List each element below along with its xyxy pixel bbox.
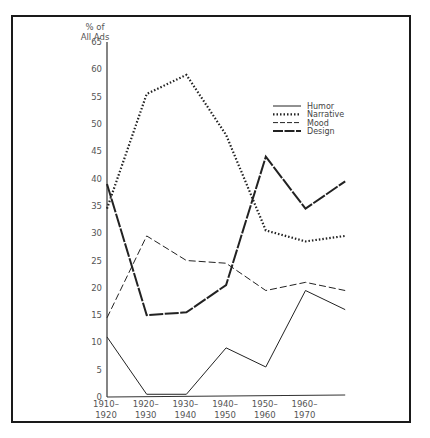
x-tick-label: 1920	[95, 410, 117, 420]
y-tick-label: 50	[91, 119, 102, 129]
x-tick-label: 1940	[175, 410, 197, 420]
x-tick-label: 1970	[294, 410, 316, 420]
y-tick-label: 25	[91, 256, 102, 266]
x-tick-label: 1960–	[292, 399, 318, 409]
legend-label-design: Design	[307, 127, 335, 136]
series-line-narrative	[107, 75, 345, 242]
line-chart: % of All Ads 05101520253035404550556065 …	[0, 0, 430, 438]
series-line-mood	[107, 236, 345, 318]
y-tick-label: 35	[91, 201, 102, 211]
series-line-design	[107, 157, 345, 315]
x-tick-label: 1910–	[93, 399, 119, 409]
y-tick-label: 15	[91, 310, 102, 320]
x-tick-label: 1930	[135, 410, 157, 420]
y-axis-label-line1: % of	[86, 22, 106, 32]
x-axis-line	[107, 395, 345, 397]
y-tick-label: 30	[91, 228, 102, 238]
y-tick-label: 65	[91, 37, 102, 47]
x-tick-label: 1940–	[212, 399, 238, 409]
y-tick-label: 40	[91, 174, 102, 184]
y-tick-label: 55	[91, 92, 102, 102]
x-ticks: 1910–19201920–19301930–19401940–19501950…	[93, 399, 317, 420]
x-tick-label: 1960	[254, 410, 276, 420]
x-tick-label: 1930–	[172, 399, 198, 409]
y-tick-label: 5	[97, 365, 102, 375]
y-ticks: 05101520253035404550556065	[91, 37, 102, 402]
x-tick-label: 1950	[214, 410, 236, 420]
x-tick-label: 1920–	[133, 399, 159, 409]
legend: HumorNarrativeMoodDesign	[273, 102, 344, 136]
y-tick-label: 60	[91, 64, 102, 74]
series-line-humor	[107, 291, 345, 395]
y-tick-label: 45	[91, 146, 102, 156]
axes	[107, 42, 345, 397]
y-tick-label: 20	[91, 283, 102, 293]
x-tick-label: 1950–	[252, 399, 278, 409]
y-tick-label: 10	[91, 337, 102, 347]
